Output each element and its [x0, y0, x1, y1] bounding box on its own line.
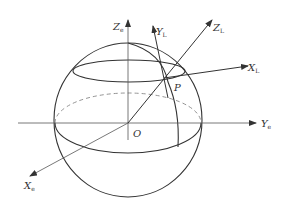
origin-label: O	[133, 128, 141, 139]
xl-axis	[164, 66, 248, 78]
xl-label: XL	[247, 62, 259, 74]
latitude-circle	[73, 60, 185, 82]
diagram-canvas: Ze YL ZL XL P Ye O Xe	[0, 0, 285, 210]
point-p-label: P	[173, 82, 181, 93]
zl-label: ZL	[212, 22, 224, 34]
xe-axis	[30, 123, 128, 176]
xe-label: Xe	[23, 180, 35, 192]
ye-label: Ye	[261, 118, 272, 130]
ze-label: Ze	[112, 21, 124, 33]
sphere-coordinate-diagram: Ze YL ZL XL P Ye O Xe	[0, 0, 285, 210]
zl-axis	[128, 20, 212, 123]
yl-label: YL	[156, 26, 167, 38]
